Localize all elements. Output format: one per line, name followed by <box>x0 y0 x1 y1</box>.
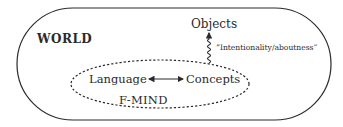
intentionality-label: “Intentionality/aboutness” <box>216 43 318 52</box>
f-mind-label: F-MIND <box>119 93 168 107</box>
intentionality-arrow <box>208 33 211 63</box>
diagram-canvas: WORLD Objects “Intentionality/aboutness”… <box>0 0 343 127</box>
world-label: WORLD <box>36 32 92 46</box>
concepts-label: Concepts <box>186 72 240 86</box>
world-boundary <box>17 8 331 120</box>
language-label: Language <box>89 72 147 86</box>
objects-label: Objects <box>191 17 237 31</box>
